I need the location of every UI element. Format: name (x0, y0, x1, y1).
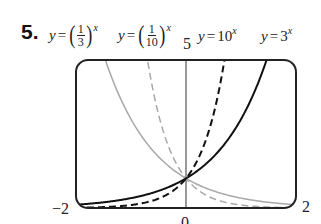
plot-area (0, 0, 321, 224)
x-max-label: 2 (302, 198, 310, 216)
x-min-label: −2 (52, 200, 69, 218)
y-min-label: 0 (181, 214, 189, 224)
